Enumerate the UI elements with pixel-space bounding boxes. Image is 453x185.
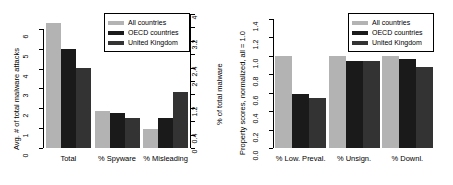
- legend-swatch-all-countries: [352, 21, 368, 25]
- y-axis-tick: [269, 130, 273, 131]
- legend-item: All countries: [108, 18, 185, 27]
- y-axis-tick-label: 3: [22, 88, 29, 104]
- x-axis-tick-label: % Spyware: [93, 154, 142, 163]
- bar: [292, 94, 309, 148]
- legend-swatch-oecd-countries: [352, 31, 368, 35]
- legend-label: United Kingdom: [128, 39, 178, 46]
- y2-axis-tick: [191, 94, 195, 95]
- x-axis-tick-label: % Unsign.: [327, 154, 380, 163]
- x-axis-tick-label: % Misleading: [141, 154, 190, 163]
- chart-panel-left: Avg. # of total malware attacks % of tot…: [0, 0, 227, 185]
- x-axis-tick-label: % Downl.: [381, 154, 434, 163]
- y2-axis-tick: [191, 121, 195, 122]
- y2-axis-tick-label: 1.2: [191, 103, 198, 119]
- x-axis-tick-label: Total: [44, 154, 93, 163]
- legend-label: OECD countries: [372, 29, 423, 36]
- y2-axis-tick-label: 4: [191, 10, 198, 26]
- bar: [61, 49, 76, 148]
- left-y2-axis-title: % of total malware: [215, 63, 224, 125]
- bar: [110, 113, 125, 148]
- y-axis-tick-label: 1: [22, 128, 29, 144]
- bar: [173, 92, 188, 148]
- legend-label: United Kingdom: [372, 39, 422, 46]
- y-axis-tick-label: 1.4: [252, 18, 259, 34]
- y-axis-tick: [269, 56, 273, 57]
- y2-axis-tick-label: 0.4: [191, 130, 198, 146]
- bar: [346, 61, 363, 148]
- legend-item: OECD countries: [352, 28, 429, 37]
- y-axis-tick-label: 0.2: [252, 129, 259, 145]
- y-axis-tick-label: 1.0: [252, 55, 259, 71]
- chart-panel-right: Property scores, normalized, all = 1.0 A…: [226, 0, 453, 185]
- legend-label: All countries: [372, 19, 410, 26]
- bar: [399, 59, 416, 148]
- bar: [125, 118, 140, 148]
- y-axis-tick-label: 0.4: [252, 111, 259, 127]
- y-axis-tick: [39, 128, 43, 129]
- y-axis-tick-label: 4: [22, 68, 29, 84]
- bar: [416, 67, 433, 148]
- y-axis-tick: [39, 69, 43, 70]
- bar: [382, 56, 399, 148]
- y2-axis-tick-label: 2.4: [191, 63, 198, 79]
- bar: [275, 56, 292, 148]
- legend-swatch-united-kingdom: [108, 41, 124, 45]
- figure: Avg. # of total malware attacks % of tot…: [0, 0, 453, 185]
- x-axis-tick-label: % Low. Preval.: [274, 154, 327, 163]
- bar: [329, 56, 346, 148]
- y-axis-tick: [269, 148, 273, 149]
- legend-right: All countries OECD countries United King…: [348, 13, 434, 52]
- y-axis-tick: [39, 148, 43, 149]
- legend-item: OECD countries: [108, 28, 185, 37]
- bar: [46, 23, 61, 148]
- y-axis-tick-label: 1.2: [252, 37, 259, 53]
- y-axis-tick-label: 0: [22, 148, 29, 164]
- legend-item: United Kingdom: [352, 38, 429, 47]
- y-axis-tick: [39, 29, 43, 30]
- y2-axis-tick-label: 3.2: [191, 36, 198, 52]
- y-axis-tick: [269, 19, 273, 20]
- bar: [309, 98, 326, 148]
- bar: [363, 61, 380, 148]
- legend-item: United Kingdom: [108, 38, 185, 47]
- y-axis-tick: [39, 49, 43, 50]
- left-axis-spine: [43, 29, 44, 148]
- legend-label: OECD countries: [128, 29, 179, 36]
- legend-swatch-united-kingdom: [352, 41, 368, 45]
- y-axis-tick: [269, 93, 273, 94]
- y-axis-tick-label: 0.0: [252, 148, 259, 164]
- y-axis-tick: [39, 108, 43, 109]
- legend-swatch-oecd-countries: [108, 31, 124, 35]
- legend-swatch-all-countries: [108, 21, 124, 25]
- y2-axis-tick: [191, 54, 195, 55]
- y-axis-tick-label: 5: [22, 48, 29, 64]
- right-y-axis-title: Property scores, normalized, all = 1.0: [238, 31, 247, 155]
- left-axis-spine: [273, 19, 274, 148]
- legend-label: All countries: [128, 19, 166, 26]
- y-axis-tick: [269, 74, 273, 75]
- y-axis-tick-label: 6: [22, 28, 29, 44]
- y2-axis-tick: [191, 27, 195, 28]
- bar: [95, 111, 110, 148]
- bar: [76, 68, 91, 148]
- y-axis-tick-label: 0.8: [252, 74, 259, 90]
- y-axis-tick: [39, 88, 43, 89]
- y-axis-tick: [269, 37, 273, 38]
- y-axis-tick-label: 0.6: [252, 92, 259, 108]
- y-axis-tick-label: 2: [22, 108, 29, 124]
- bar: [158, 118, 173, 148]
- legend-item: All countries: [352, 18, 429, 27]
- y-axis-tick: [269, 111, 273, 112]
- legend-left: All countries OECD countries United King…: [104, 13, 190, 52]
- bar: [143, 129, 158, 148]
- left-y-axis-title: Avg. # of total malware attacks: [12, 48, 21, 150]
